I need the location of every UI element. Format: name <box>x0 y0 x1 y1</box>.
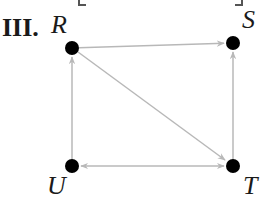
cropped-bracket-left <box>79 0 86 5</box>
edge-r-to-t <box>78 52 225 160</box>
node-label-t: T <box>243 171 259 200</box>
node-s <box>226 36 240 50</box>
node-u <box>65 159 79 173</box>
cropped-bracket-right <box>235 0 242 5</box>
figure-label: III. <box>2 13 39 42</box>
node-r <box>65 41 79 55</box>
node-label-u: U <box>47 171 68 200</box>
node-label-s: S <box>242 5 255 34</box>
node-t <box>226 159 240 173</box>
directed-graph-diagram: III. R S U T <box>0 0 260 207</box>
node-label-r: R <box>50 10 67 39</box>
edge-r-to-s <box>79 43 224 48</box>
